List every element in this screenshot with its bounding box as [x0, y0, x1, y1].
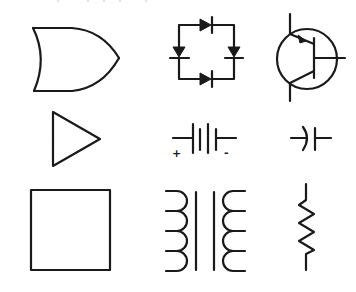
block-square-icon [31, 190, 110, 270]
capacitor-icon [291, 127, 331, 150]
or-gate-icon [33, 28, 119, 91]
resistor-icon [299, 184, 314, 270]
buffer-triangle-icon [53, 112, 100, 166]
transformer-icon [166, 191, 245, 271]
transistor-icon [277, 14, 345, 101]
cropped-text-remnant [57, 0, 147, 2]
schematic-symbols-diagram: + - [0, 0, 356, 292]
battery-icon: + - [172, 124, 236, 160]
positive-terminal-label: + [172, 147, 181, 160]
negative-terminal-label: - [224, 146, 229, 159]
bridge-rectifier-icon [170, 17, 243, 87]
